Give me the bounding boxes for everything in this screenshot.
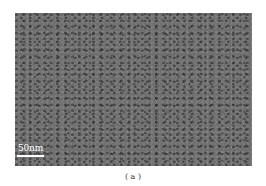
- scale-bar-label: 50nm: [18, 143, 43, 153]
- figure-caption: ( a ): [0, 172, 266, 181]
- cropped-text-fragment: [130, 0, 266, 5]
- micrograph-image: [15, 13, 252, 166]
- scale-bar: [17, 155, 44, 157]
